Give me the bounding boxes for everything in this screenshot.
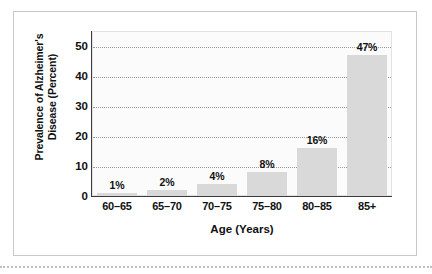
bar[interactable] — [247, 172, 287, 196]
x-axis-title: Age (Years) — [92, 223, 392, 235]
y-axis-tick-labels: 01020304050 — [60, 31, 88, 196]
bar-slot: 1% — [92, 31, 142, 196]
bar-slot: 47% — [342, 31, 392, 196]
bar-slot: 2% — [142, 31, 192, 196]
bar-value-label: 8% — [242, 158, 292, 170]
bar-value-label: 47% — [342, 41, 392, 53]
x-axis-tick-label: 60–65 — [92, 200, 142, 212]
x-axis-tick-label: 65–70 — [142, 200, 192, 212]
x-axis-tick-label: 75–80 — [242, 200, 292, 212]
y-axis-tick-label: 20 — [60, 130, 88, 142]
y-axis-tick-label: 10 — [60, 160, 88, 172]
figure-frame: Prevalence of Alzheimer's Disease (Perce… — [13, 11, 417, 256]
bar-value-label: 2% — [142, 176, 192, 188]
y-axis-tick-label: 50 — [60, 40, 88, 52]
x-axis-tick-label: 85+ — [342, 200, 392, 212]
bar-value-label: 4% — [192, 170, 242, 182]
y-axis-tick-label: 30 — [60, 100, 88, 112]
alzheimers-prevalence-bar-chart: Prevalence of Alzheimer's Disease (Perce… — [14, 12, 418, 257]
bar[interactable] — [97, 193, 137, 196]
bar[interactable] — [147, 190, 187, 196]
x-axis-line — [92, 196, 392, 197]
x-axis-tick-label: 80–85 — [292, 200, 342, 212]
y-axis-tick-label: 0 — [60, 190, 88, 202]
bar-slot: 8% — [242, 31, 292, 196]
bar-slot: 16% — [292, 31, 342, 196]
y-axis-title: Prevalence of Alzheimer's Disease (Perce… — [33, 17, 59, 177]
bar-value-label: 16% — [292, 134, 342, 146]
bar-value-label: 1% — [92, 179, 142, 191]
y-axis-title-line-2: Disease (Percent) — [46, 17, 59, 177]
bar[interactable] — [347, 55, 387, 196]
page-separator-rule — [0, 266, 432, 268]
y-axis-title-line-1: Prevalence of Alzheimer's — [33, 17, 46, 177]
x-axis-tick-labels: 60–6565–7070–7575–8080–8585+ — [92, 200, 392, 212]
bar-slot: 4% — [192, 31, 242, 196]
y-axis-tick-label: 40 — [60, 70, 88, 82]
bar[interactable] — [297, 148, 337, 196]
x-axis-tick-label: 70–75 — [192, 200, 242, 212]
bar[interactable] — [197, 184, 237, 196]
bars-group: 1%2%4%8%16%47% — [92, 31, 392, 196]
